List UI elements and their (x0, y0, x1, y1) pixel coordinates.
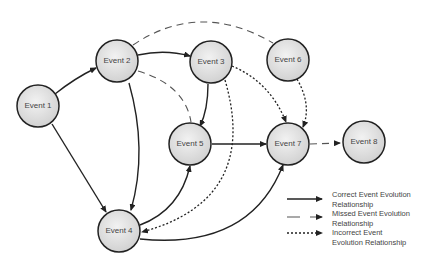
svg-text:Event 4: Event 4 (105, 226, 133, 235)
event-evolution-diagram: Event 1 Event 2 Event 3 Event 4 Event 5 … (0, 0, 426, 267)
edge-e6-e7 (297, 79, 306, 127)
node-event-5: Event 5 (169, 123, 211, 165)
legend-correct-line2: Relationship (332, 200, 411, 210)
edge-e2-e3 (138, 52, 190, 56)
edge-e2-e5 (138, 71, 191, 122)
legend-correct-line1: Correct Event Evolution (332, 190, 411, 200)
node-event-6: Event 6 (267, 39, 309, 81)
missed-edges (133, 22, 340, 144)
legend-correct-label: Correct Event Evolution Relationship (332, 190, 411, 209)
node-event-1: Event 1 (17, 85, 59, 127)
svg-text:Event 8: Event 8 (350, 137, 378, 146)
svg-text:Event 7: Event 7 (274, 139, 302, 148)
correct-edges (52, 52, 283, 240)
svg-text:Event 2: Event 2 (103, 56, 131, 65)
legend-incorrect-line1: Incorrect Event (332, 228, 406, 238)
svg-text:Event 6: Event 6 (274, 55, 302, 64)
legend-incorrect-line2: Evolution Relationship (332, 238, 406, 248)
svg-text:Event 3: Event 3 (197, 57, 225, 66)
node-event-4: Event 4 (98, 210, 140, 252)
node-event-8: Event 8 (343, 121, 385, 163)
node-event-3: Event 3 (190, 41, 232, 83)
edge-e3-e5 (200, 84, 208, 126)
edge-e4-e7 (140, 165, 283, 240)
node-event-2: Event 2 (96, 40, 138, 82)
legend-incorrect-label: Incorrect Event Evolution Relationship (332, 228, 406, 247)
edge-e7-e8 (310, 143, 340, 144)
edge-e1-e4 (52, 124, 106, 212)
svg-text:Event 5: Event 5 (176, 139, 204, 148)
edge-e2-e4 (129, 83, 139, 210)
edge-e1-e2 (55, 68, 96, 94)
svg-text:Event 1: Event 1 (24, 101, 52, 110)
node-event-7: Event 7 (267, 123, 309, 165)
legend-missed-label: Missed Event Evolution Relationship (332, 209, 410, 228)
edge-e2-e6 (133, 22, 273, 45)
legend-missed-line1: Missed Event Evolution (332, 209, 410, 219)
legend-missed-line2: Relationship (332, 219, 410, 229)
legend-symbols (287, 199, 322, 233)
